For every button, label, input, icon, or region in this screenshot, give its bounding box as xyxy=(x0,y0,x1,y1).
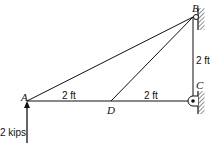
point-d-label: D xyxy=(107,105,115,116)
point-b-label: B xyxy=(192,3,199,14)
pin-c-icon xyxy=(191,99,195,103)
wall-b-hatch xyxy=(199,8,205,30)
member-db xyxy=(111,17,193,101)
dimension-dc: 2 ft xyxy=(144,91,158,101)
dimension-cb: 2 ft xyxy=(196,56,210,66)
pin-b-icon xyxy=(194,15,199,20)
truss-diagram xyxy=(0,0,213,149)
point-a-label: A xyxy=(21,92,28,103)
dimension-ad: 2 ft xyxy=(62,91,76,101)
wall-c-hatch xyxy=(199,91,205,114)
point-c-label: C xyxy=(196,80,203,91)
member-ab xyxy=(27,17,193,101)
load-label: 2 kips xyxy=(0,128,26,138)
